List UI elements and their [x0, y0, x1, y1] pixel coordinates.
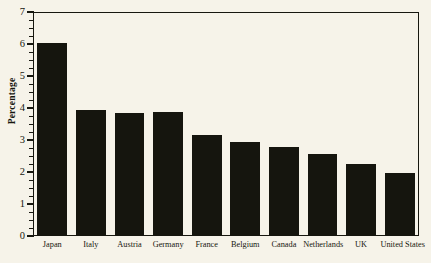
y-axis-minor-tick: [29, 60, 34, 61]
x-axis-tick-label: United States: [380, 241, 419, 249]
y-axis-minor-tick: [29, 188, 34, 189]
bar-chart-figure: Percentage 01234567JapanItalyAustriaGerm…: [0, 0, 431, 263]
y-axis-minor-tick: [29, 116, 34, 117]
y-axis-tick-label: 6: [8, 39, 25, 50]
bar: [230, 142, 260, 236]
y-axis-tick-label: 0: [8, 231, 25, 242]
y-axis-minor-tick: [29, 220, 34, 221]
x-axis-tick-label: Netherlands: [303, 241, 342, 249]
y-axis-tick-label: 3: [8, 135, 25, 146]
y-axis-minor-tick: [29, 164, 34, 165]
bar: [308, 154, 338, 236]
y-axis-tick: [27, 43, 34, 45]
y-axis-minor-tick: [29, 212, 34, 213]
x-axis-tick-label: UK: [342, 241, 381, 249]
bar: [115, 113, 145, 236]
x-axis-tick-label: France: [187, 241, 226, 249]
x-axis-tick-label: Austria: [110, 241, 149, 249]
bar: [153, 112, 183, 236]
y-axis-tick-label: 2: [8, 167, 25, 178]
x-axis-tick-label: Canada: [265, 241, 304, 249]
x-axis-tick-label: Japan: [33, 241, 72, 249]
y-axis-minor-tick: [29, 52, 34, 53]
y-axis-minor-tick: [29, 84, 34, 85]
bar: [385, 173, 415, 236]
y-axis-minor-tick: [29, 100, 34, 101]
y-axis-tick: [27, 11, 34, 13]
x-axis-tick-label: Italy: [72, 241, 111, 249]
y-axis-minor-tick: [29, 20, 34, 21]
y-axis-minor-tick: [29, 132, 34, 133]
x-axis-tick-label: Belgium: [226, 241, 265, 249]
y-axis-minor-tick: [29, 148, 34, 149]
x-axis-tick-label: Germany: [149, 241, 188, 249]
y-axis-minor-tick: [29, 68, 34, 69]
bar: [346, 164, 376, 236]
bar: [192, 135, 222, 236]
y-axis-tick: [27, 203, 34, 205]
y-axis-minor-tick: [29, 196, 34, 197]
y-axis-minor-tick: [29, 36, 34, 37]
y-axis-tick: [27, 235, 34, 237]
y-axis-tick-label: 4: [8, 103, 25, 114]
y-axis-minor-tick: [29, 92, 34, 93]
y-axis-minor-tick: [29, 156, 34, 157]
bar: [37, 43, 67, 236]
y-axis-tick: [27, 139, 34, 141]
y-axis-minor-tick: [29, 28, 34, 29]
y-axis-tick: [27, 171, 34, 173]
y-axis-tick-label: 5: [8, 71, 25, 82]
y-axis-tick: [27, 107, 34, 109]
bars-container: [33, 12, 419, 236]
y-axis-minor-tick: [29, 124, 34, 125]
bar: [76, 110, 106, 236]
y-axis-minor-tick: [29, 228, 34, 229]
y-axis-tick-label: 7: [8, 7, 25, 18]
bar: [269, 147, 299, 236]
y-axis-minor-tick: [29, 180, 34, 181]
y-axis-tick-label: 1: [8, 199, 25, 210]
y-axis-tick: [27, 75, 34, 77]
